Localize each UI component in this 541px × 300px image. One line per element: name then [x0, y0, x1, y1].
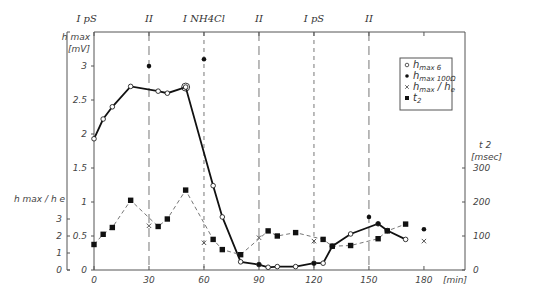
data-point-hmax6 [348, 232, 353, 237]
data-point-hmax6 [238, 260, 243, 265]
y-secondary-tick-label: 1 [56, 248, 62, 258]
data-point-hmax6 [101, 117, 106, 122]
data-point-hmax100 [376, 221, 381, 226]
data-point-t2 [330, 244, 335, 249]
y-left-tick-label: 1 [81, 197, 87, 207]
data-point-hmax6 [275, 264, 280, 269]
y-left-tick-label: 3 [81, 61, 87, 71]
data-point-hmax6 [220, 215, 225, 220]
x-tick-label: 180 [415, 275, 432, 285]
data-point-t2 [183, 187, 188, 192]
y-left-tick-label: 2.5 [73, 95, 88, 105]
data-point-hmax6 [266, 265, 271, 270]
phase-label: I pS [75, 13, 97, 24]
legend-symbol-filled-dot [405, 74, 409, 78]
data-point-hmax6 [211, 183, 216, 188]
data-point-t2 [385, 228, 390, 233]
x-tick-label: 60 [198, 275, 210, 285]
x-tick-label: 120 [305, 275, 322, 285]
series-line-open-circle [94, 86, 406, 267]
data-point-hmax6 [110, 105, 115, 110]
phase-label: II [364, 13, 374, 24]
y-secondary-tick-label: 0 [56, 265, 62, 275]
data-point-ratio [422, 239, 426, 243]
data-point-hmax6 [183, 85, 188, 90]
y-secondary-tick-label: 3 [56, 214, 62, 224]
x-tick-label: 30 [143, 275, 155, 285]
data-point-t2 [348, 243, 353, 248]
y-left-label-unit: [mV] [68, 44, 90, 54]
data-point-t2 [320, 237, 325, 242]
data-point-t2 [275, 233, 280, 238]
data-point-t2 [91, 242, 96, 247]
y-right-tick-label: 0 [473, 265, 479, 275]
y-secondary-tick-label: 2 [56, 231, 62, 241]
data-point-hmax100 [202, 57, 207, 62]
y-left-tick-label: 0.5 [73, 231, 88, 241]
data-point-t2 [403, 221, 408, 226]
data-point-hmax6 [321, 261, 326, 266]
x-tick-label: 90 [253, 275, 265, 285]
legend-symbol-open-circle [405, 63, 409, 67]
data-point-hmax100 [257, 262, 262, 267]
data-point-t2 [375, 236, 380, 241]
y-secondary-label: h max / h e [14, 194, 65, 204]
data-point-hmax100 [147, 64, 152, 69]
data-point-t2 [128, 198, 133, 203]
data-point-hmax6 [92, 136, 97, 141]
x-axis-label: [min] [443, 275, 467, 285]
data-point-hmax6 [165, 91, 170, 96]
y-right-tick-label: 100 [473, 231, 490, 241]
phase-label: II [144, 13, 154, 24]
data-point-t2 [238, 252, 243, 257]
y-left-tick-label: 0 [81, 265, 87, 275]
legend-symbol-filled-square [405, 96, 409, 100]
phase-lines [149, 32, 369, 270]
y-right-tick-label: 200 [473, 197, 490, 207]
y-right-label-name: t 2 [479, 140, 491, 150]
data-point-hmax100 [312, 261, 317, 266]
data-point-t2 [155, 224, 160, 229]
y-left-label-name: h max [62, 32, 91, 42]
data-point-hmax6 [128, 84, 133, 89]
y-left-tick-label: 1.5 [73, 163, 88, 173]
data-point-hmax6 [156, 89, 161, 94]
data-point-t2 [100, 232, 105, 237]
data-point-t2 [293, 230, 298, 235]
data-point-t2 [220, 247, 225, 252]
x-tick-label: 150 [360, 275, 377, 285]
chart: 0306090120150180[min]00.511.522.53h max[… [0, 0, 541, 300]
data-point-hmax6 [403, 237, 408, 242]
data-point-hmax6 [293, 264, 298, 269]
data-point-hmax100 [367, 215, 372, 220]
series-line-filled-square [94, 190, 406, 255]
y-right-tick-label: 300 [473, 163, 490, 173]
data-point-hmax100 [422, 227, 427, 232]
phase-label: I pS [303, 13, 325, 24]
data-point-t2 [265, 228, 270, 233]
y-right-label-unit: [msec] [471, 152, 502, 162]
phase-label: I NH4Cl [182, 13, 225, 24]
data-point-ratio [147, 224, 151, 228]
phase-label: II [254, 13, 264, 24]
data-point-t2 [165, 216, 170, 221]
axes: 0306090120150180[min]00.511.522.53h max[… [14, 13, 502, 285]
x-tick-label: 0 [91, 275, 97, 285]
data-point-t2 [110, 225, 115, 230]
data-point-t2 [210, 237, 215, 242]
y-left-tick-label: 2 [81, 129, 87, 139]
legend: hmax 6hmax 100Ωhmax / het2 [400, 58, 456, 110]
